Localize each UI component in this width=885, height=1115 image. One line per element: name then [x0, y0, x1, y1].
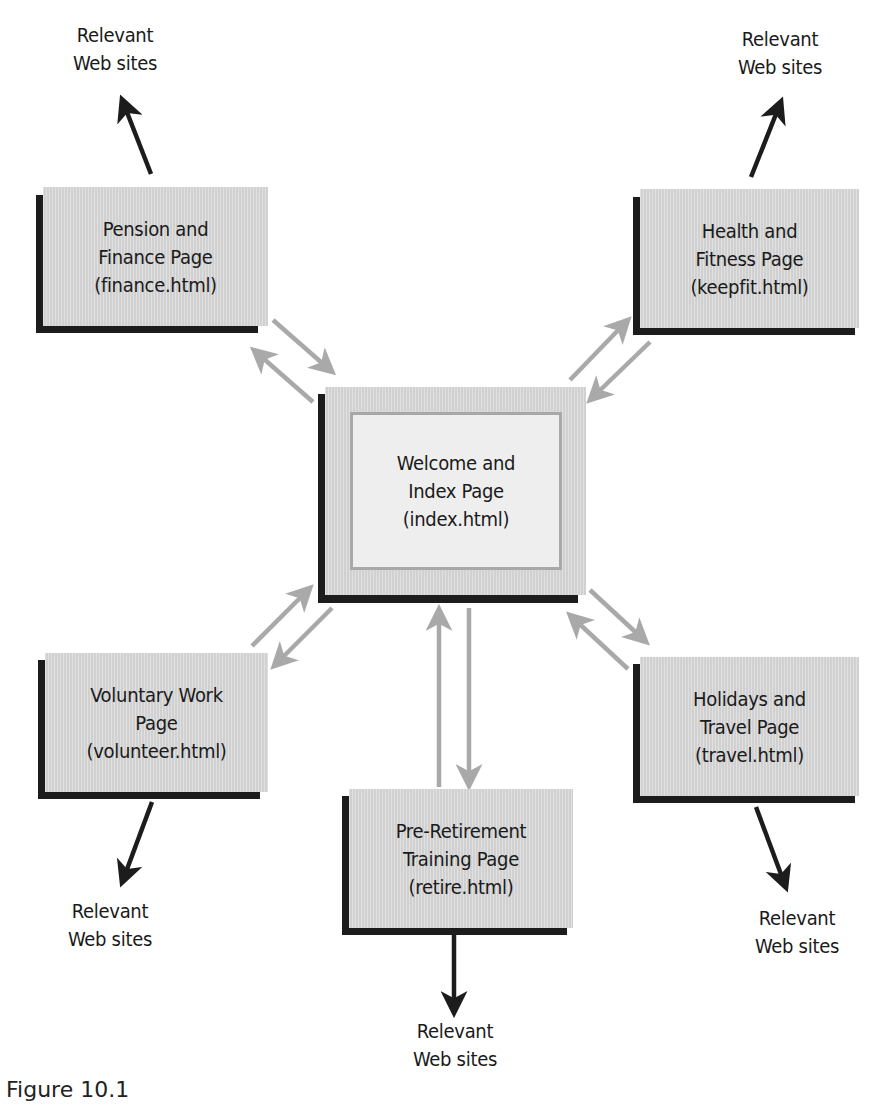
node-label: Welcome and Index Page (index.html)	[397, 449, 515, 533]
node-face: Holidays and Travel Page (travel.html)	[640, 657, 859, 796]
node-label: Holidays and Travel Page (travel.html)	[693, 685, 806, 769]
node-label: Health and Fitness Page (keepfit.html)	[690, 217, 808, 301]
node-label: Pension and Finance Page (finance.html)	[94, 215, 217, 299]
node-face: Health and Fitness Page (keepfit.html)	[640, 189, 859, 328]
external-label-keepfit: Relevant Web sites	[715, 25, 845, 81]
arrow-keepfit-to-external	[751, 104, 780, 177]
node-label: Voluntary Work Page (volunteer.html)	[86, 681, 226, 765]
external-label-finance: Relevant Web sites	[50, 21, 180, 77]
node-retire: Pre-Retirement Training Page (retire.htm…	[342, 789, 573, 935]
arrow-index-to-finance	[256, 352, 313, 402]
arrow-finance-to-external	[123, 102, 151, 174]
node-volunteer: Voluntary Work Page (volunteer.html)	[38, 653, 268, 799]
node-face: Pension and Finance Page (finance.html)	[43, 187, 268, 326]
node-inner-panel: Welcome and Index Page (index.html)	[350, 412, 562, 570]
arrow-travel-to-external	[756, 807, 785, 885]
external-label-travel: Relevant Web sites	[732, 904, 862, 960]
node-finance: Pension and Finance Page (finance.html)	[36, 187, 268, 333]
node-label: Pre-Retirement Training Page (retire.htm…	[396, 817, 527, 901]
figure-caption: Figure 10.1	[6, 1077, 129, 1102]
node-index-hub: Welcome and Index Page (index.html)	[318, 387, 586, 603]
node-keepfit: Health and Fitness Page (keepfit.html)	[633, 189, 859, 335]
external-label-volunteer: Relevant Web sites	[45, 897, 175, 953]
node-face: Voluntary Work Page (volunteer.html)	[45, 653, 268, 792]
edge-index-retire	[439, 608, 469, 787]
arrow-index-to-travel	[590, 590, 644, 640]
arrow-volunteer-to-external	[123, 802, 152, 880]
node-travel: Holidays and Travel Page (travel.html)	[633, 657, 859, 803]
arrow-finance-to-index	[273, 320, 330, 370]
site-map-diagram: Pension and Finance Page (finance.html) …	[0, 0, 885, 1115]
node-face: Welcome and Index Page (index.html)	[325, 387, 586, 595]
external-label-retire: Relevant Web sites	[385, 1017, 525, 1073]
arrow-travel-to-index	[572, 617, 628, 669]
node-face: Pre-Retirement Training Page (retire.htm…	[349, 789, 573, 928]
